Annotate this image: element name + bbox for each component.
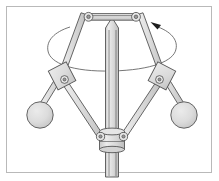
left-flyball [27,102,53,128]
rotation-arrow-head [151,22,162,30]
rotation-arrow-group [151,22,162,30]
right-lower-link-arm [119,80,162,141]
upper-cross-arm [88,14,136,21]
right-flyball [171,102,197,128]
left-collar-pivot-inner [99,135,102,138]
left-top-pivot-inner [87,15,91,19]
sliding-collar-group [100,128,125,153]
diagram-canvas [27,12,197,177]
left-knee-pivot-inner [63,78,66,81]
right-top-pivot-inner [134,15,138,19]
left-lower-link-arm [62,80,105,141]
figure-root [0,0,219,181]
centrifugal-governor-diagram [0,0,219,181]
crossbar-group [88,14,136,21]
collar-bottom-rim [100,146,125,152]
right-knee-pivot-inner [158,78,161,81]
right-collar-pivot-inner [122,135,125,138]
